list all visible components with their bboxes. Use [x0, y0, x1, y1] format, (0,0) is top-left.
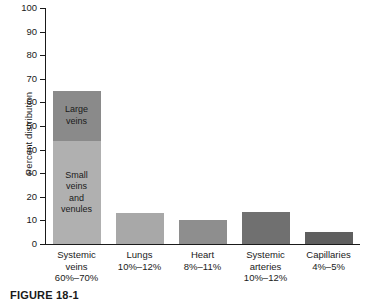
x-axis-label-line: arteries — [234, 261, 297, 273]
y-axis-tick: 40 — [40, 150, 45, 151]
x-axis-label-line: 10%–12% — [234, 272, 297, 284]
x-axis-label-heart: Heart8%–11% — [171, 249, 234, 272]
y-axis-tick-label: 10 — [26, 214, 37, 225]
figure-caption: FIGURE 18-1 — [10, 289, 79, 300]
x-axis-label-line: 8%–11% — [171, 261, 234, 273]
y-axis-tick-label: 80 — [26, 49, 37, 60]
y-axis-tick-label: 70 — [26, 73, 37, 84]
y-axis-tick: 30 — [40, 173, 45, 174]
x-axis-label-line: Capillaries — [297, 249, 360, 261]
bar-segment-small-veins-and-venules: Smallveinsandvenules — [53, 141, 101, 244]
x-axis-label-line: 4%–5% — [297, 261, 360, 273]
bar-segment-capillaries-bar — [305, 232, 353, 244]
y-axis-tick-label: 50 — [26, 120, 37, 131]
bar-capillaries[interactable] — [305, 232, 353, 244]
x-axis-label-capillaries: Capillaries4%–5% — [297, 249, 360, 272]
y-axis-tick: 80 — [40, 55, 45, 56]
y-axis-tick: 60 — [40, 102, 45, 103]
x-axis-line — [45, 244, 360, 245]
bar-systemic-arteries[interactable] — [242, 212, 290, 244]
bar-segment-lungs-bar — [116, 213, 164, 244]
y-axis-tick: 100 — [40, 8, 45, 9]
y-axis-tick: 0 — [40, 244, 45, 245]
y-axis-tick-label: 0 — [32, 238, 37, 249]
y-axis-tick: 20 — [40, 197, 45, 198]
y-axis-tick: 90 — [40, 32, 45, 33]
x-axis-label-line: Systemic — [234, 249, 297, 261]
y-axis-tick: 10 — [40, 220, 45, 221]
y-axis-tick-label: 40 — [26, 144, 37, 155]
y-axis-tick: 70 — [40, 79, 45, 80]
y-axis-tick-label: 20 — [26, 191, 37, 202]
bar-systemic-veins[interactable]: SmallveinsandvenulesLargeveins — [53, 91, 101, 244]
x-axis-label-line: Lungs — [108, 249, 171, 261]
plot-area: 0102030405060708090100 Smallveinsandvenu… — [45, 8, 360, 245]
x-axis-label-line: Heart — [171, 249, 234, 261]
x-axis-label-line: veins — [45, 261, 108, 273]
x-axis-label-line: Systemic — [45, 249, 108, 261]
y-axis-tick-label: 30 — [26, 167, 37, 178]
x-axis-label-line: 60%–70% — [45, 272, 108, 284]
x-axis-label-systemic-arteries: Systemicarteries10%–12% — [234, 249, 297, 284]
bar-segment-heart-bar — [179, 220, 227, 244]
y-axis-tick-label: 100 — [21, 2, 37, 13]
x-axis-label-lungs: Lungs10%–12% — [108, 249, 171, 272]
bar-segment-large-veins: Largeveins — [53, 91, 101, 142]
bar-heart[interactable] — [179, 220, 227, 244]
x-axis-label-line: 10%–12% — [108, 261, 171, 273]
y-axis-line — [45, 8, 46, 245]
bar-segment-label: Smallveinsandvenules — [60, 170, 93, 216]
bar-lungs[interactable] — [116, 213, 164, 244]
bar-segment-label: Largeveins — [64, 104, 89, 127]
figure-container: Percent distribution 0102030405060708090… — [0, 0, 369, 300]
y-axis-tick-label: 60 — [26, 96, 37, 107]
bar-segment-systemic-arteries-bar — [242, 212, 290, 244]
y-axis-tick: 50 — [40, 126, 45, 127]
x-axis-label-systemic-veins: Systemicveins60%–70% — [45, 249, 108, 284]
y-axis-tick-label: 90 — [26, 26, 37, 37]
